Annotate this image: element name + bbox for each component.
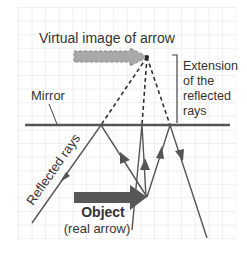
extension-label-line2: of the [183,74,214,88]
virtual-image-label: Virtual image of arrow [39,30,176,46]
virtual-image-point [145,55,149,59]
mirror-label: Mirror [31,88,66,103]
extension-label-line3: reflected [183,89,231,103]
object-sublabel: (real arrow) [64,221,130,236]
extension-label-line4: rays [183,104,207,118]
mirror-reflection-diagram: Virtual image of arrow Extension of the … [0,0,247,254]
extension-label-line1: Extension [183,59,238,73]
object-label: Object [81,204,125,220]
